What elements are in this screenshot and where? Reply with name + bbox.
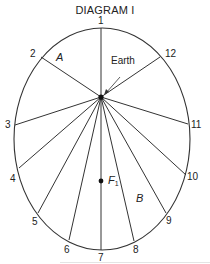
point-label-9: 9 <box>166 216 172 226</box>
region-label-b: B <box>136 193 143 204</box>
earth-label: Earth <box>111 56 135 66</box>
radius-line-10 <box>101 97 186 175</box>
f1-label-main: F <box>108 174 115 186</box>
f1-focus-dot <box>99 179 104 184</box>
point-label-2: 2 <box>30 49 36 59</box>
point-label-11: 11 <box>191 120 201 130</box>
point-label-4: 4 <box>10 174 16 184</box>
point-label-6: 6 <box>64 245 70 255</box>
radius-line-2 <box>41 57 101 97</box>
radius-line-4 <box>19 97 101 168</box>
point-label-1: 1 <box>98 16 104 26</box>
bottom-divider <box>60 262 210 263</box>
radius-line-8 <box>101 97 134 241</box>
point-label-10: 10 <box>187 172 198 182</box>
point-label-5: 5 <box>32 217 38 227</box>
radius-lines <box>15 28 188 250</box>
point-label-12: 12 <box>165 49 176 59</box>
orbit-ellipse <box>14 28 190 250</box>
diagram-canvas: DIAGRAM I 1 2 3 4 5 6 7 8 9 10 11 12 <box>0 0 210 264</box>
region-label-a: A <box>56 52 63 63</box>
f1-label: F1 <box>108 175 119 187</box>
point-label-8: 8 <box>133 245 139 255</box>
radius-line-6 <box>69 97 101 240</box>
earth-focus-dot <box>98 94 103 99</box>
point-label-3: 3 <box>5 120 11 130</box>
f1-label-subscript: 1 <box>115 180 119 187</box>
